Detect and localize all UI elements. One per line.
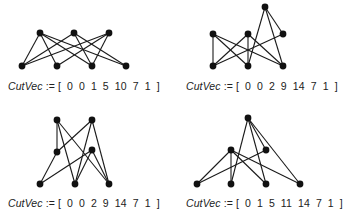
assign-operator: := — [224, 80, 233, 92]
graph-vertex — [210, 31, 217, 38]
cutvec-values: [ 0 1 5 11 14 7 1 ] — [236, 197, 343, 209]
graph-vertex — [37, 181, 44, 188]
graph-vertex — [106, 30, 113, 37]
graph-panel-4 — [194, 115, 304, 188]
graph-vertex — [262, 4, 269, 11]
graph-panel-3 — [37, 117, 113, 188]
assign-operator: := — [224, 197, 233, 209]
cutvec-caption-1: CutVec := [ 0 0 1 5 10 7 1 ] — [8, 80, 160, 92]
graph-vertex — [54, 117, 61, 124]
graph-edge — [57, 120, 92, 152]
graph-panel-1 — [19, 30, 130, 70]
graph-vertex — [54, 63, 61, 70]
cutvec-variable: CutVec — [186, 197, 221, 209]
graph-vertex — [245, 31, 252, 38]
graph-vertex — [89, 147, 96, 154]
graph-vertex — [19, 63, 26, 70]
assign-operator: := — [46, 197, 55, 209]
cutvec-caption-2: CutVec := [ 0 0 2 9 14 7 1 ] — [186, 80, 338, 92]
cutvec-variable: CutVec — [186, 80, 221, 92]
graph-vertex — [123, 63, 130, 70]
graph-vertex — [89, 117, 96, 124]
assign-operator: := — [46, 80, 55, 92]
cutvec-values: [ 0 0 2 9 14 7 1 ] — [236, 80, 338, 92]
graph-vertex — [228, 147, 235, 154]
graph-vertex — [89, 63, 96, 70]
graph-vertex — [245, 63, 252, 70]
graph-edge — [231, 150, 300, 184]
graph-edge — [22, 33, 40, 66]
cutvec-values: [ 0 0 2 9 14 7 1 ] — [58, 197, 160, 209]
graph-vertex — [72, 181, 79, 188]
graph-vertex — [263, 181, 270, 188]
graph-vertex — [194, 181, 201, 188]
graph-vertex — [106, 181, 113, 188]
graph-edge — [40, 150, 92, 184]
graph-vertex — [280, 63, 287, 70]
graph-panel-2 — [210, 4, 287, 70]
graph-vertex — [228, 181, 235, 188]
cutvec-caption-3: CutVec := [ 0 0 2 9 14 7 1 ] — [8, 197, 160, 209]
graph-vertex — [297, 181, 304, 188]
graph-vertex — [210, 63, 217, 70]
graph-vertex — [245, 115, 252, 122]
graph-edge — [265, 7, 283, 34]
graph-edge — [197, 150, 231, 184]
cutvec-caption-4: CutVec := [ 0 1 5 11 14 7 1 ] — [186, 197, 343, 209]
cutvec-values: [ 0 0 1 5 10 7 1 ] — [58, 80, 160, 92]
graph-edge — [40, 152, 57, 184]
graph-vertex — [263, 147, 270, 154]
graph-vertex — [54, 149, 61, 156]
cutvec-variable: CutVec — [8, 197, 43, 209]
graph-edge — [248, 118, 266, 150]
graph-edge — [231, 150, 266, 184]
graph-vertex — [280, 31, 287, 38]
graph-vertex — [71, 30, 78, 37]
graph-vertex — [37, 30, 44, 37]
cutvec-variable: CutVec — [8, 80, 43, 92]
